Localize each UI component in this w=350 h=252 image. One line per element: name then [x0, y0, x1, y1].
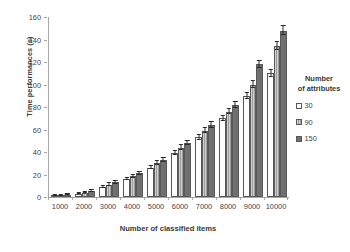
bar-slot	[232, 17, 238, 197]
x-tick-label: 5000	[144, 202, 168, 211]
error-bar-cap-bottom	[268, 76, 272, 77]
x-axis-tick-labels: 1000200030004000500060007000800090001000…	[48, 197, 288, 213]
x-tick-cell: 6000	[168, 197, 192, 213]
error-bar-cap-bottom	[281, 34, 285, 35]
bar[interactable]	[184, 143, 190, 197]
bar[interactable]	[280, 31, 286, 198]
y-tick-mark	[44, 130, 47, 131]
bar-slot	[280, 17, 286, 197]
bar-chart-figure: Time performances (s) 160140120100806040…	[0, 0, 350, 252]
bar-group	[193, 17, 217, 197]
x-tick-mark	[120, 197, 121, 200]
legend-label: 90	[305, 118, 313, 127]
y-tick-mark	[44, 17, 47, 18]
bar-slot	[184, 17, 190, 197]
x-tick-label: 9000	[240, 202, 264, 211]
error-bar-cap-bottom	[172, 154, 176, 155]
bar-group	[145, 17, 169, 197]
error-bar-cap-bottom	[100, 187, 104, 188]
error-bar-cap-top	[209, 121, 213, 122]
error-bar-cap-bottom	[131, 177, 135, 178]
legend-items: 3090150	[288, 101, 350, 143]
error-bar-cap-top	[137, 171, 141, 172]
y-tick-label: 60	[33, 125, 41, 134]
error-bar-cap-top	[113, 180, 117, 181]
legend-item[interactable]: 150	[296, 134, 350, 143]
legend-title: Number of attributes	[288, 74, 350, 93]
y-tick-mark	[44, 107, 47, 108]
bar-slot	[88, 17, 94, 197]
error-bar-cap-bottom	[107, 185, 111, 186]
error-bar-cap-top	[179, 144, 183, 145]
error-bar-cap-bottom	[155, 164, 159, 165]
y-axis-tick-labels: 160140120100806040200	[0, 0, 48, 252]
x-tick-cell: 9000	[240, 197, 264, 213]
x-tick-mark	[240, 197, 241, 200]
error-bar-cap-bottom	[275, 49, 279, 50]
error-bar-cap-top	[100, 185, 104, 186]
bar-groups	[49, 17, 289, 197]
legend-label: 30	[305, 101, 313, 110]
x-tick-mark	[72, 197, 73, 200]
error-bar-cap-top	[131, 174, 135, 175]
legend-item[interactable]: 30	[296, 101, 350, 110]
error-bar-cap-top	[268, 69, 272, 70]
error-bar-cap-top	[275, 41, 279, 42]
bar[interactable]	[256, 64, 262, 197]
bar[interactable]	[112, 182, 118, 197]
x-tick-label: 10000	[264, 202, 288, 211]
x-axis-end-tick	[287, 197, 288, 200]
bar-group	[97, 17, 121, 197]
x-tick-cell: 8000	[216, 197, 240, 213]
y-tick-mark	[44, 152, 47, 153]
error-bar-cap-bottom	[89, 191, 93, 192]
error-bar-cap-bottom	[113, 183, 117, 184]
x-tick-label: 3000	[96, 202, 120, 211]
x-tick-label: 2000	[72, 202, 96, 211]
legend-title-line-2: of attributes	[288, 84, 350, 94]
error-bar-cap-bottom	[220, 120, 224, 121]
bar-slot	[112, 17, 118, 197]
legend-swatch	[296, 103, 302, 109]
bar[interactable]	[208, 125, 214, 197]
error-bar-cap-top	[124, 177, 128, 178]
error-bar-cap-bottom	[124, 179, 128, 180]
error-bar-cap-bottom	[148, 168, 152, 169]
error-bar-cap-top	[244, 92, 248, 93]
y-tick-label: 20	[33, 170, 41, 179]
bar[interactable]	[136, 173, 142, 197]
error-bar-cap-bottom	[185, 144, 189, 145]
legend-swatch	[296, 136, 302, 142]
bar-group	[241, 17, 265, 197]
bar[interactable]	[160, 160, 166, 197]
x-tick-label: 4000	[120, 202, 144, 211]
legend-label: 150	[305, 134, 317, 143]
y-tick-label: 140	[29, 35, 41, 44]
y-tick-mark	[44, 40, 47, 41]
y-tick-mark	[44, 62, 47, 63]
error-bar-cap-top	[220, 115, 224, 116]
x-tick-cell: 5000	[144, 197, 168, 213]
error-bar-cap-bottom	[244, 98, 248, 99]
y-tick-mark	[44, 175, 47, 176]
error-bar-cap-bottom	[233, 107, 237, 108]
error-bar-cap-top	[233, 101, 237, 102]
x-tick-cell: 10000	[264, 197, 288, 213]
bar[interactable]	[232, 105, 238, 197]
x-tick-label: 8000	[216, 202, 240, 211]
error-bar-cap-top	[196, 134, 200, 135]
error-bar-cap-top	[107, 182, 111, 183]
bar-slot	[160, 17, 166, 197]
error-bar-cap-top	[203, 127, 207, 128]
error-bar-cap-bottom	[59, 195, 63, 196]
bar-group	[73, 17, 97, 197]
legend-item[interactable]: 90	[296, 118, 350, 127]
legend: Number of attributes 3090150	[288, 74, 350, 151]
bar-group	[49, 17, 73, 197]
error-bar-cap-bottom	[65, 194, 69, 195]
error-bar-cap-bottom	[196, 139, 200, 140]
legend-swatch	[296, 119, 302, 125]
error-bar-cap-top	[161, 157, 165, 158]
y-tick-mark	[44, 85, 47, 86]
bar-group	[169, 17, 193, 197]
